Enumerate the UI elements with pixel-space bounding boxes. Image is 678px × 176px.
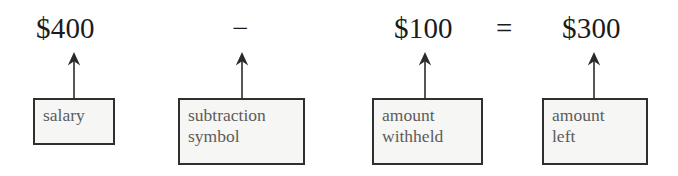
equation-term-withheld-amount: $100 <box>394 14 453 43</box>
callout-box-subtraction-symbol: subtraction symbol <box>178 98 305 165</box>
equation-operator-equals: = <box>496 14 512 43</box>
equation-term-remaining-amount: $300 <box>562 14 621 43</box>
arrow-up-icon-to-subtraction-symbol <box>231 52 253 100</box>
callout-box-amount-left-line-2: left <box>552 126 646 147</box>
callout-box-amount-withheld-line-2: withheld <box>382 126 481 147</box>
callout-box-salary-line-1: salary <box>43 105 113 126</box>
callout-box-subtraction-symbol-line-1: subtraction <box>188 105 303 126</box>
equation-callout-diagram: $400 − $100 = $300 salary subtraction <box>0 0 678 176</box>
arrow-up-icon-to-amount-withheld <box>414 52 436 100</box>
callout-box-amount-withheld-line-1: amount <box>382 105 481 126</box>
equation-operator-minus: − <box>232 14 248 43</box>
callout-box-subtraction-symbol-line-2: symbol <box>188 126 303 147</box>
arrow-up-icon-to-amount-left <box>583 52 605 100</box>
callout-box-amount-left: amount left <box>542 98 648 165</box>
callout-box-salary: salary <box>33 98 115 145</box>
callout-box-amount-left-line-1: amount <box>552 105 646 126</box>
callout-box-amount-withheld: amount withheld <box>372 98 483 165</box>
equation-term-salary-amount: $400 <box>36 14 95 43</box>
arrow-up-icon-to-salary <box>63 52 85 100</box>
